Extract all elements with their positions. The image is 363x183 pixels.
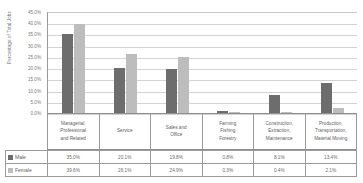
category-label: Production,Transportation,Material Movin… <box>305 113 357 149</box>
x-axis-category-labels: Managerial,Professionaland RelatedServic… <box>47 113 357 150</box>
bar-female <box>74 24 85 113</box>
table-cell-value: 26.1% <box>100 164 152 176</box>
bar-group <box>151 12 203 113</box>
category-label: Construction,Extraction,Maintenance <box>253 113 305 149</box>
bar-female <box>178 57 189 113</box>
bars-layer <box>48 12 357 113</box>
legend-item-female: Female <box>6 164 48 176</box>
y-axis-tick-label: 40.0% <box>28 21 41 26</box>
table-cell-value: 19.8% <box>151 151 203 163</box>
bar-male <box>166 69 177 113</box>
y-axis-tick-label: 45.0% <box>28 10 41 15</box>
chart-data-table: Male35.0%20.1%19.8%0.8%8.1%13.4% Female3… <box>5 150 357 177</box>
legend-label: Male <box>15 154 26 160</box>
y-axis-tick-label: 35.0% <box>28 32 41 37</box>
table-cell-value: 2.1% <box>306 164 357 176</box>
category-label: Service <box>99 113 151 149</box>
bar-group <box>203 12 255 113</box>
category-label: Managerial,Professionaland Related <box>47 113 99 149</box>
bar-male <box>62 34 73 113</box>
y-axis-tick-label: 0.0% <box>31 111 41 116</box>
table-cell-value: 0.4% <box>254 164 306 176</box>
legend-swatch-icon <box>8 168 13 173</box>
y-axis-tick-label: 5.0% <box>31 99 41 104</box>
table-cell-value: 0.3% <box>203 164 255 176</box>
table-cell-value: 0.8% <box>203 151 255 163</box>
bar-male <box>269 95 280 113</box>
y-axis-tick-label: 10.0% <box>28 88 41 93</box>
bar-chart: Percentage of Total Jobs 45.0%40.0%35.0%… <box>0 0 363 183</box>
table-cell-value: 8.1% <box>254 151 306 163</box>
table-cell-value: 24.9% <box>151 164 203 176</box>
table-cell-value: 39.6% <box>48 164 100 176</box>
category-label-text: Sales andOffice <box>166 124 187 139</box>
table-row: Male35.0%20.1%19.8%0.8%8.1%13.4% <box>6 151 356 164</box>
category-label-text: Production,Transportation,Material Movin… <box>314 120 347 142</box>
bar-male <box>114 68 125 113</box>
bar-group <box>48 12 100 113</box>
y-axis-tick-label: 25.0% <box>28 54 41 59</box>
table-cell-value: 35.0% <box>48 151 100 163</box>
bar-female <box>126 54 137 113</box>
table-cell-value: 20.1% <box>100 151 152 163</box>
bar-group <box>306 12 358 113</box>
category-label-text: Construction,Extraction,Maintenance <box>265 120 293 142</box>
category-label: FarmingFishingForestry <box>202 113 254 149</box>
table-row: Female39.6%26.1%24.9%0.3%0.4%2.1% <box>6 164 356 176</box>
y-axis-tick-label: 15.0% <box>28 77 41 82</box>
y-axis-tick-label: 30.0% <box>28 43 41 48</box>
legend-item-male: Male <box>6 151 48 163</box>
category-label: Sales andOffice <box>150 113 202 149</box>
category-label-text: FarmingFishingForestry <box>219 120 236 142</box>
category-label-text: Managerial,Professionaland Related <box>60 120 86 142</box>
category-label-text: Service <box>117 127 133 134</box>
legend-swatch-icon <box>8 155 13 160</box>
legend-label: Female <box>15 167 32 173</box>
bar-male <box>321 83 332 113</box>
y-axis-tick-label: 20.0% <box>28 66 41 71</box>
table-cell-value: 13.4% <box>306 151 357 163</box>
bar-group <box>100 12 152 113</box>
bar-group <box>255 12 307 113</box>
